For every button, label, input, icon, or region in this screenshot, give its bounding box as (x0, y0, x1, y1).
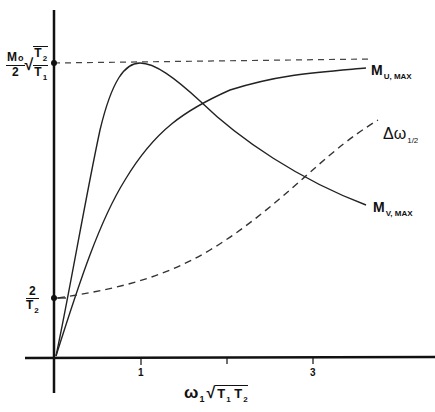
curve-mv-max (56, 63, 366, 356)
curve-label-mv-max: MV, MAX (373, 199, 413, 218)
x-axis (25, 357, 435, 358)
diagram-canvas (0, 0, 435, 412)
curve-label-mu-max: MU, MAX (371, 62, 412, 81)
x-axis-label: ω1√T1 T2 (184, 383, 248, 404)
y-label-top: Mo 2 √ T2 T1 (6, 46, 48, 84)
y-marker-top (51, 60, 57, 66)
x-tick-label-1: 1 (138, 367, 144, 378)
y-label-bottom: 2 T2 (26, 285, 39, 317)
x-tick-label-3: 3 (310, 367, 316, 378)
curve-label-delta-omega: Δω1/2 (383, 125, 418, 145)
curve-delta-omega (58, 120, 378, 298)
peak-reference-line (54, 59, 370, 63)
